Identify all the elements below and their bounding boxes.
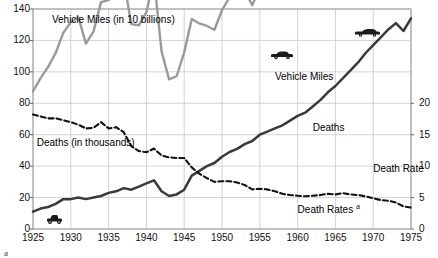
x-tick-1930: 1930 bbox=[51, 233, 91, 243]
vintage-car-icon bbox=[44, 211, 64, 229]
chart-footnote: a bbox=[4, 250, 8, 258]
x-tick-1965: 1965 bbox=[315, 233, 355, 243]
x-tick-1960: 1960 bbox=[278, 233, 318, 243]
x-tick-1945: 1945 bbox=[164, 233, 204, 243]
x-tick-1950: 1950 bbox=[202, 233, 242, 243]
annotation-death-rate: Death Rate bbox=[373, 163, 424, 174]
traffic-safety-chart: 020406080100120140 05101520 192519301935… bbox=[0, 0, 438, 258]
y-left-tick-20: 20 bbox=[0, 193, 30, 203]
x-tick-1970: 1970 bbox=[353, 233, 393, 243]
annotation-deaths: Deaths bbox=[313, 122, 345, 133]
annotation-vehicle-miles-in-billions: Vehicle Miles (in 10 billions) bbox=[52, 14, 175, 25]
annotation-deaths-in-thousands: Deaths (in thousands) bbox=[37, 137, 135, 148]
y-left-tick-100: 100 bbox=[0, 67, 30, 77]
footnote-marker: a bbox=[356, 203, 360, 210]
modern-car-icon bbox=[354, 24, 381, 42]
y-left-tick-80: 80 bbox=[0, 98, 30, 108]
x-tick-1940: 1940 bbox=[126, 233, 166, 243]
y-left-tick-140: 140 bbox=[0, 4, 30, 14]
y-left-tick-40: 40 bbox=[0, 161, 30, 171]
y-right-tick-20: 20 bbox=[419, 98, 438, 108]
y-left-tick-60: 60 bbox=[0, 130, 30, 140]
x-tick-1935: 1935 bbox=[89, 233, 129, 243]
annotation-death-rates: Death Rates a bbox=[298, 201, 360, 215]
annotation-vehicle-miles: Vehicle Miles bbox=[275, 71, 333, 82]
x-tick-1955: 1955 bbox=[240, 233, 280, 243]
y-left-tick-120: 120 bbox=[0, 35, 30, 45]
x-tick-1925: 1925 bbox=[13, 233, 53, 243]
y-right-tick-5: 5 bbox=[419, 193, 438, 203]
sedan-car-icon bbox=[270, 46, 294, 64]
y-right-tick-15: 15 bbox=[419, 130, 438, 140]
x-tick-1975: 1975 bbox=[391, 233, 431, 243]
